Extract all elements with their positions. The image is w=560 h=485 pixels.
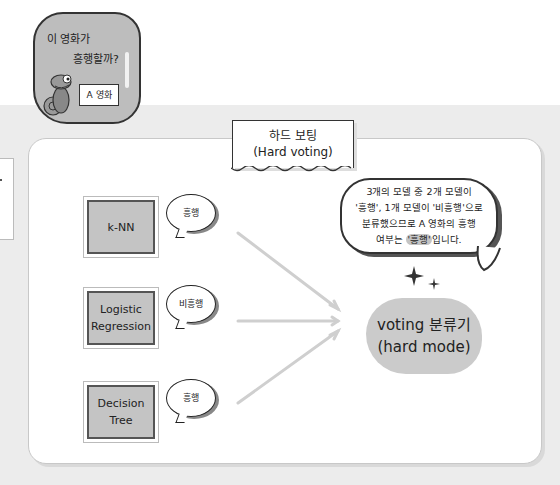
question-line-1: 이 영화가: [47, 30, 91, 46]
model-box-decision-tree: Decision Tree: [87, 385, 155, 439]
classifier-line-2: (hard mode): [366, 336, 482, 358]
vote-label: 흥행: [183, 393, 199, 403]
title-korean: 하드 보팅: [233, 128, 353, 144]
sparkle-icon: [404, 264, 444, 294]
chameleon-mascot-icon: [41, 72, 77, 118]
model-label: Decision Tree: [89, 395, 153, 429]
movie-sign: A 영화: [79, 84, 119, 106]
vote-arrows: [230, 225, 350, 405]
highlighted-result: '흥행': [406, 234, 431, 245]
title-note: 하드 보팅 (Hard voting): [232, 120, 354, 168]
model-box-knn: k-NN: [87, 200, 155, 254]
explanation-speech-bubble: 3개의 모델 중 2개 모델이 '흥행', 1개 모델이 '비흥행'으로 분류했…: [340, 178, 498, 254]
speech-tail-icon: [476, 246, 506, 276]
bubble-shine: [125, 52, 129, 88]
explanation-line-2: '흥행', 1개 모델이 '비흥행'으로: [342, 200, 496, 216]
explanation-line-1: 3개의 모델 중 2개 모델이: [342, 184, 496, 200]
arrow-icon: [238, 233, 338, 309]
explanation-line-3: 분류했으므로 A 영화의 흥행: [342, 216, 496, 232]
model-label: k-NN: [108, 219, 135, 236]
vote-bubble-decision-tree: 흥행: [166, 379, 216, 417]
vote-label: 흥행: [183, 208, 199, 218]
explanation-line-4: 여부는 '흥행'입니다.: [342, 232, 496, 248]
arrow-icon: [238, 331, 338, 403]
voting-classifier-box: voting 분류기 (hard mode): [366, 298, 482, 374]
question-bubble: 이 영화가 흥행할까? A 영화: [33, 12, 141, 124]
model-label: Logistic Regression: [89, 301, 153, 335]
classifier-line-1: voting 분류기: [366, 314, 482, 336]
side-card-fragment: [0, 158, 14, 240]
vote-bubble-knn: 흥행: [166, 194, 216, 232]
title-english: (Hard voting): [233, 144, 353, 160]
vote-bubble-logistic-regression: 비흥행: [166, 285, 216, 323]
torn-edge-icon: [231, 166, 355, 174]
model-box-logistic-regression: Logistic Regression: [87, 291, 155, 345]
question-line-2: 흥행할까?: [73, 50, 119, 66]
vote-label: 비흥행: [179, 299, 203, 309]
